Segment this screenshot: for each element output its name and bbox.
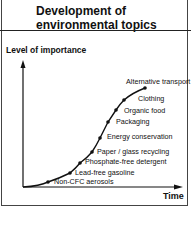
label-non-cfc-aerosols: Non-CFC aerosols (54, 178, 114, 186)
label-packaging: Packaging (116, 118, 150, 126)
label-phosphate-free-detergent: Phosphate-free detergent (85, 158, 167, 166)
label-alternative-transport: Alternative transport (126, 78, 190, 86)
x-axis-arrow-icon (174, 185, 183, 190)
label-organic-food: Organic food (124, 107, 165, 115)
label-clothing: Clothing (138, 95, 164, 103)
label-energy-conservation: Energy conservation (107, 133, 173, 141)
y-axis-arrow-icon (21, 60, 26, 68)
label-lead-free-gasoline: Lead-free gasoline (75, 169, 135, 177)
label-paper-glass-recycling: Paper / glass recycling (97, 148, 169, 156)
